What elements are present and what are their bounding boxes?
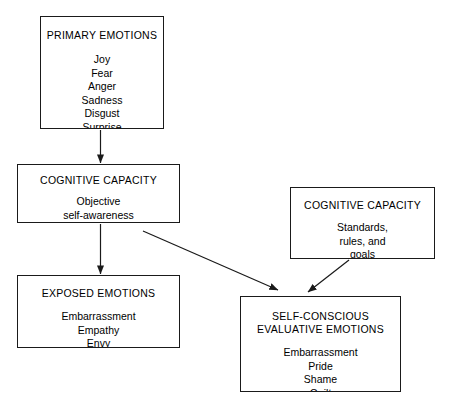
node-cognitive-capacity-standards-items: Standards, rules, and goals bbox=[291, 221, 434, 259]
node-primary-emotions-title: PRIMARY EMOTIONS bbox=[41, 29, 163, 42]
node-self-conscious-emotions-title: SELF-CONSCIOUS EVALUATIVE EMOTIONS bbox=[241, 310, 400, 336]
node-self-conscious-emotions: SELF-CONSCIOUS EVALUATIVE EMOTIONS Embar… bbox=[240, 296, 401, 392]
node-self-conscious-emotions-items: Embarrassment Pride Shame Guilt bbox=[241, 346, 400, 392]
edge-standards-to-self-conscious bbox=[308, 260, 349, 292]
node-exposed-emotions-title: EXPOSED EMOTIONS bbox=[18, 287, 179, 300]
emotion-development-flowchart: PRIMARY EMOTIONS Joy Fear Anger Sadness … bbox=[0, 0, 449, 408]
node-exposed-emotions-items: Embarrassment Empathy Envy bbox=[18, 310, 179, 348]
node-cognitive-capacity-self-title: COGNITIVE CAPACITY bbox=[18, 174, 179, 187]
node-cognitive-capacity-self-items: Objective self-awareness bbox=[18, 195, 179, 222]
node-exposed-emotions: EXPOSED EMOTIONS Embarrassment Empathy E… bbox=[17, 275, 180, 348]
node-primary-emotions-items: Joy Fear Anger Sadness Disgust Surprise bbox=[41, 53, 163, 129]
node-cognitive-capacity-standards: COGNITIVE CAPACITY Standards, rules, and… bbox=[290, 187, 435, 259]
node-primary-emotions: PRIMARY EMOTIONS Joy Fear Anger Sadness … bbox=[40, 16, 164, 129]
node-cognitive-capacity-self: COGNITIVE CAPACITY Objective self-awaren… bbox=[17, 164, 180, 223]
node-cognitive-capacity-standards-title: COGNITIVE CAPACITY bbox=[291, 199, 434, 212]
